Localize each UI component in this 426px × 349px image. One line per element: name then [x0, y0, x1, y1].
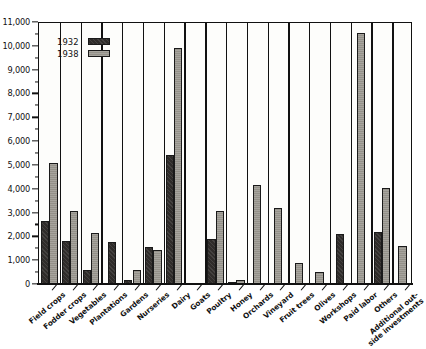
- x-tick: [259, 285, 264, 291]
- legend-item-1932: 1932: [57, 36, 110, 47]
- y-tick-label: 2,000: [8, 231, 30, 241]
- bar-1932: [166, 155, 174, 284]
- plot-area: [38, 22, 412, 284]
- bar-1932: [145, 247, 153, 284]
- y-axis: 01,0002,0003,0004,0005,0006,0007,0008,00…: [0, 0, 38, 300]
- category-separator: [101, 23, 102, 284]
- dark-hatched-swatch: [88, 38, 110, 45]
- category-separator: [143, 23, 144, 284]
- legend-item-1938: 1938: [57, 48, 110, 59]
- category-separator: [288, 23, 289, 284]
- x-tick: [197, 285, 202, 291]
- y-tick-label: 3,000: [8, 208, 30, 218]
- x-tick: [384, 285, 389, 291]
- bar-1932: [336, 234, 344, 284]
- bar-1932: [41, 221, 49, 284]
- y-tick-label: 8,000: [8, 88, 30, 98]
- y-tick-label: 0: [25, 279, 30, 289]
- x-tick: [405, 285, 410, 291]
- bar-1938: [398, 246, 406, 284]
- bar-1932: [108, 242, 116, 284]
- legend-label-1938: 1938: [57, 49, 82, 59]
- x-tick: [93, 285, 98, 291]
- y-tick-label: 10,000: [3, 41, 30, 51]
- bar-1932: [207, 239, 215, 284]
- x-tick: [280, 285, 285, 291]
- category-separator: [392, 23, 393, 284]
- gray-hatched-swatch: [88, 50, 110, 57]
- bar-1938: [357, 33, 365, 284]
- x-tick: [301, 285, 306, 291]
- y-tick-label: 6,000: [8, 136, 30, 146]
- y-tick-label: 11,000: [3, 17, 30, 27]
- bar-1938: [253, 185, 261, 284]
- category-separator: [309, 23, 310, 284]
- x-tick: [114, 285, 119, 291]
- bar-1938: [153, 250, 161, 284]
- bar-1938: [91, 233, 99, 284]
- x-tick: [363, 285, 368, 291]
- bar-1938: [295, 263, 303, 284]
- category-separator: [330, 23, 331, 284]
- bar-1932: [83, 270, 91, 284]
- category-separator: [268, 23, 269, 284]
- bar-1938: [70, 211, 78, 284]
- category-separator: [122, 23, 123, 284]
- bar-1932: [374, 232, 382, 284]
- y-tick-label: 4,000: [8, 184, 30, 194]
- category-separator: [351, 23, 352, 284]
- category-separator: [81, 23, 82, 284]
- category-separator: [184, 23, 185, 284]
- legend: 1932 1938: [57, 36, 110, 60]
- bar-1938: [49, 163, 57, 284]
- bar-1938: [216, 211, 224, 284]
- bar-1938: [382, 188, 390, 284]
- y-tick-label: 5,000: [8, 160, 30, 170]
- x-tick: [238, 285, 243, 291]
- x-tick: [176, 285, 181, 291]
- x-axis-label: Dairy: [170, 291, 192, 311]
- x-tick: [135, 285, 140, 291]
- x-tick: [155, 285, 160, 291]
- category-separator: [247, 23, 248, 284]
- bar-1932: [62, 241, 70, 284]
- bar-1938: [174, 48, 182, 284]
- bar-1938: [274, 208, 282, 284]
- x-tick: [72, 285, 77, 291]
- y-tick-label: 7,000: [8, 112, 30, 122]
- x-tick: [342, 285, 347, 291]
- x-tick: [218, 285, 223, 291]
- x-axis-baseline: [37, 283, 413, 285]
- bar-1938: [133, 270, 141, 284]
- y-tick-label: 1,000: [8, 255, 30, 265]
- y-tick-label: 9,000: [8, 65, 30, 75]
- x-tick: [322, 285, 327, 291]
- legend-label-1932: 1932: [57, 37, 82, 47]
- category-separator: [226, 23, 227, 284]
- x-tick: [51, 285, 56, 291]
